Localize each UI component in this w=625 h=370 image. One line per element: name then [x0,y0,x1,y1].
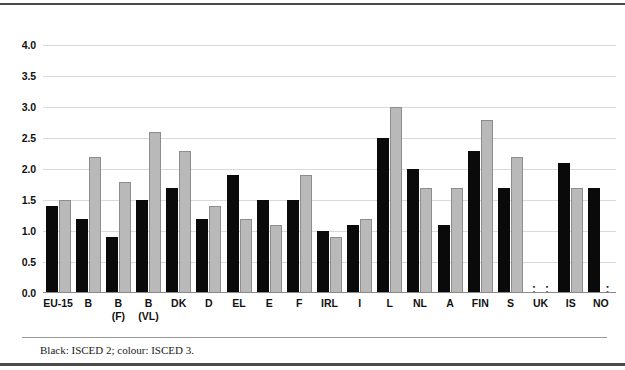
bar [240,219,252,293]
bar-group [133,30,163,293]
bar [76,219,88,293]
bar [119,182,131,293]
y-axis-tick-label: 3.0 [0,101,36,113]
bar [588,188,600,293]
bar [420,188,432,293]
y-axis-tick-label: 1.0 [0,225,36,237]
bar [558,163,570,293]
x-axis-tick-label: B (VL) [133,297,163,323]
x-axis-tick-label: D [194,297,224,310]
x-axis-labels: EU-15BB (F)B (VL)DKDELEFIRLILNLAFINSUKIS… [43,297,616,337]
x-axis-tick-label: S [495,297,525,310]
top-rule [0,3,625,5]
bar [330,237,342,293]
bar-group [405,30,435,293]
bar-group [435,30,465,293]
bar-group [194,30,224,293]
bar [317,231,329,293]
bar-group [73,30,103,293]
bar [136,200,148,293]
bar-group [586,30,616,293]
bar [571,188,583,293]
y-axis-tick-label: 4.0 [0,39,36,51]
bar [89,157,101,293]
bar [270,225,282,293]
no-data-marker [601,30,613,293]
bar [149,132,161,293]
bar [438,225,450,293]
bar-group [284,30,314,293]
y-axis-tick-label: 2.5 [0,132,36,144]
x-axis-tick-label: IS [556,297,586,310]
bar [196,219,208,293]
x-axis-tick-label: F [284,297,314,310]
x-axis-tick-label: EL [224,297,254,310]
bar [166,188,178,293]
bar-group [103,30,133,293]
bar [209,206,221,293]
footnote-separator [22,337,607,338]
bar [481,120,493,293]
x-axis-tick-label: E [254,297,284,310]
bar [59,200,71,293]
x-axis-tick-label: I [345,297,375,310]
x-axis-tick-label: NO [586,297,616,310]
bar-group [465,30,495,293]
bar [347,225,359,293]
bar-group [495,30,525,293]
bar [300,175,312,293]
bar [390,107,402,293]
bar [451,188,463,293]
x-axis-baseline [43,292,616,293]
bar [106,237,118,293]
x-axis-tick-label: DK [164,297,194,310]
chart-page: 0.00.51.01.52.02.53.03.54.0 EU-15BB (F)B… [0,0,625,370]
bar [498,188,510,293]
y-axis-tick-label: 3.5 [0,70,36,82]
bar-group [164,30,194,293]
bar-group [224,30,254,293]
bar [407,169,419,293]
no-data-marker [528,30,540,293]
bar [257,200,269,293]
y-axis-tick-label: 1.5 [0,194,36,206]
bar-group [43,30,73,293]
x-axis-tick-label: FIN [465,297,495,310]
bar [360,219,372,293]
x-axis-tick-label: A [435,297,465,310]
x-axis-tick-label: B [73,297,103,310]
bar [377,138,389,293]
bar-group [254,30,284,293]
bar [179,151,191,293]
bar-group [314,30,344,293]
no-data-marker [541,30,553,293]
bar-group [345,30,375,293]
bar [468,151,480,293]
x-axis-tick-label: IRL [314,297,344,310]
plot-area [43,30,616,293]
bar [287,200,299,293]
x-axis-tick-label: B (F) [103,297,133,323]
bar [511,157,523,293]
x-axis-tick-label: EU-15 [43,297,73,310]
bar-group [375,30,405,293]
bar [227,175,239,293]
x-axis-tick-label: UK [526,297,556,310]
chart-footnote: Black: ISCED 2; colour: ISCED 3. [40,344,194,356]
x-axis-tick-label: NL [405,297,435,310]
bottom-rule [0,363,625,366]
x-axis-tick-label: L [375,297,405,310]
bar-group [556,30,586,293]
bar [46,206,58,293]
bar-group [526,30,556,293]
y-axis-tick-label: 2.0 [0,163,36,175]
y-axis-tick-label: 0.5 [0,256,36,268]
y-axis-tick-label: 0.0 [0,287,36,299]
